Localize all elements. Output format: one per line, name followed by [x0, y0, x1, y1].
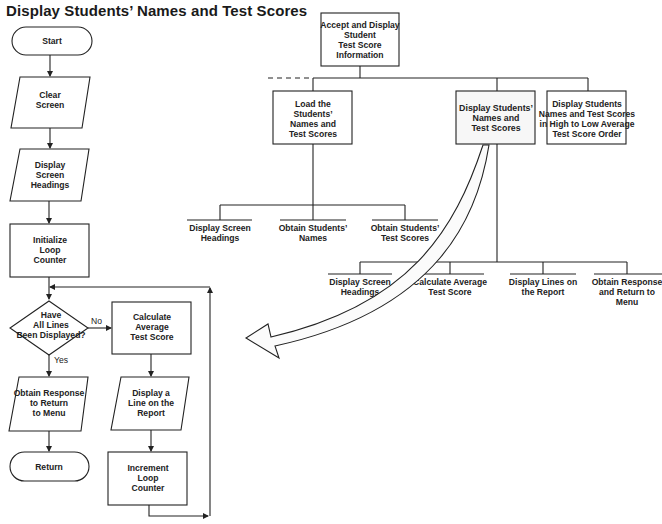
- svg-text:Loop: Loop: [40, 245, 61, 255]
- svg-text:Return: Return: [35, 462, 63, 472]
- load-child-display-headings: Display Screen Headings: [189, 223, 251, 243]
- svg-text:Obtain Students’: Obtain Students’: [371, 223, 440, 233]
- svg-text:Display: Display: [35, 160, 66, 170]
- svg-text:Test Scores: Test Scores: [381, 233, 429, 243]
- svg-text:Report: Report: [137, 408, 165, 418]
- svg-text:Headings: Headings: [201, 233, 240, 243]
- svg-text:Test Score: Test Score: [428, 287, 472, 297]
- svg-text:Names: Names: [299, 233, 327, 243]
- svg-text:Line on the: Line on the: [128, 398, 174, 408]
- diagram-canvas: Start Clear Screen Display Screen Headin…: [0, 0, 662, 524]
- hierarchy-chart: Accept and Display Student Test Score In…: [187, 13, 662, 358]
- svg-text:Obtain Response: Obtain Response: [14, 388, 85, 398]
- svg-text:Loop: Loop: [138, 473, 159, 483]
- svg-text:Calculate: Calculate: [133, 312, 171, 322]
- calculate-average-process: Calculate Average Test Score: [112, 302, 191, 354]
- svg-text:Display a: Display a: [132, 388, 170, 398]
- svg-text:Menu: Menu: [616, 297, 638, 307]
- svg-text:Initialize: Initialize: [33, 235, 67, 245]
- initialize-counter-process: Initialize Loop Counter: [10, 224, 89, 277]
- obtain-response-io: Obtain Response to Return to Menu: [9, 377, 88, 431]
- increment-counter-process: Increment Loop Counter: [108, 452, 187, 505]
- svg-text:Display Screen: Display Screen: [189, 223, 251, 233]
- hierarchy-load-box: Load the Students’ Names and Test Scores: [273, 91, 352, 144]
- svg-text:and Return to: and Return to: [599, 287, 655, 297]
- display-child-obtain-response: Obtain Response and Return to Menu: [592, 277, 662, 307]
- decision-yes-label: Yes: [54, 355, 68, 365]
- svg-text:Counter: Counter: [34, 255, 68, 265]
- svg-text:Names and Test Scores: Names and Test Scores: [539, 109, 636, 119]
- return-terminator: Return: [10, 452, 89, 481]
- display-headings-io: Display Screen Headings: [10, 149, 89, 201]
- svg-text:Names and: Names and: [290, 119, 336, 129]
- clear-screen-io: Clear Screen: [11, 77, 90, 128]
- hierarchy-sorted-display-box: Display Students Names and Test Scores i…: [539, 91, 636, 144]
- svg-text:Names and: Names and: [473, 113, 520, 123]
- display-line-io: Display a Line on the Report: [111, 377, 189, 430]
- svg-text:Average: Average: [135, 322, 169, 332]
- hierarchy-display-box-highlighted: Display Students’ Names and Test Scores: [456, 91, 535, 144]
- svg-text:Obtain Students’: Obtain Students’: [279, 223, 348, 233]
- svg-text:Test Score: Test Score: [130, 332, 174, 342]
- hierarchy-root-box: Accept and Display Student Test Score In…: [320, 13, 399, 66]
- flowchart: Start Clear Screen Display Screen Headin…: [9, 27, 210, 516]
- svg-text:Information: Information: [336, 50, 383, 60]
- svg-text:Headings: Headings: [341, 287, 380, 297]
- svg-text:Have: Have: [41, 310, 62, 320]
- start-label: Start: [42, 36, 62, 46]
- decision-no-label: No: [91, 316, 102, 326]
- load-child-obtain-scores: Obtain Students’ Test Scores: [371, 223, 440, 243]
- svg-text:Calculate Average: Calculate Average: [413, 277, 487, 287]
- svg-text:Clear: Clear: [39, 90, 61, 100]
- svg-text:Test Score Order: Test Score Order: [552, 129, 622, 139]
- svg-text:Headings: Headings: [31, 180, 70, 190]
- svg-text:Counter: Counter: [132, 483, 166, 493]
- svg-text:Display Students: Display Students: [552, 99, 622, 109]
- svg-text:to Menu: to Menu: [33, 408, 66, 418]
- svg-text:Screen: Screen: [36, 170, 65, 180]
- svg-text:Been Displayed?: Been Displayed?: [16, 330, 85, 340]
- svg-text:Display Screen: Display Screen: [329, 277, 391, 287]
- svg-text:the Report: the Report: [522, 287, 565, 297]
- svg-text:in High to Low Average: in High to Low Average: [540, 119, 635, 129]
- svg-text:Test Scores: Test Scores: [471, 123, 520, 133]
- svg-text:All Lines: All Lines: [33, 320, 69, 330]
- display-child-calculate-average: Calculate Average Test Score: [413, 277, 487, 297]
- svg-text:Accept and Display: Accept and Display: [320, 20, 399, 30]
- start-terminator: Start: [12, 27, 92, 55]
- svg-text:Load the: Load the: [295, 99, 331, 109]
- svg-text:Student: Student: [344, 30, 376, 40]
- svg-text:Test Score: Test Score: [338, 40, 382, 50]
- svg-text:Display Lines on: Display Lines on: [509, 277, 577, 287]
- svg-text:Increment: Increment: [127, 463, 168, 473]
- display-child-display-lines: Display Lines on the Report: [509, 277, 577, 297]
- svg-text:Test Scores: Test Scores: [289, 129, 337, 139]
- all-lines-displayed-decision: Have All Lines Been Displayed?: [10, 301, 88, 355]
- svg-text:to Return: to Return: [30, 398, 68, 408]
- curved-pointer-arrow-icon: [246, 145, 489, 358]
- svg-text:Screen: Screen: [36, 100, 65, 110]
- svg-text:Obtain Response: Obtain Response: [592, 277, 662, 287]
- load-child-obtain-names: Obtain Students’ Names: [279, 223, 348, 243]
- svg-text:Display Students’: Display Students’: [459, 103, 533, 113]
- svg-text:Students’: Students’: [293, 109, 332, 119]
